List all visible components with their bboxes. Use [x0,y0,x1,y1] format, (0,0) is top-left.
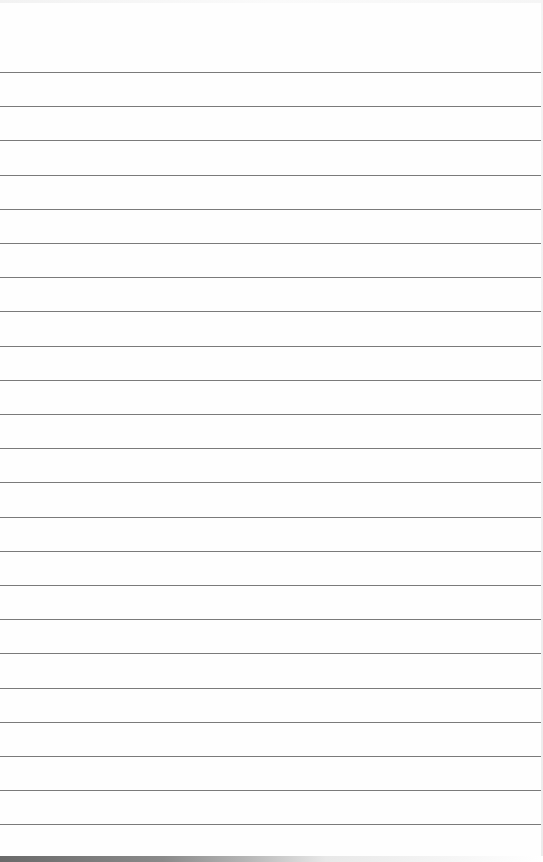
ruled-line [0,585,541,586]
bottom-edge-shadow [0,856,543,862]
ruled-line [0,517,541,518]
ruled-line [0,72,541,73]
ruled-line [0,209,541,210]
ruled-line [0,277,541,278]
ruled-line [0,311,541,312]
ruled-line [0,722,541,723]
ruled-line [0,824,541,825]
ruled-line [0,756,541,757]
ruled-line [0,482,541,483]
lined-paper-page [0,0,543,862]
ruled-line [0,140,541,141]
ruled-line [0,106,541,107]
ruled-line [0,653,541,654]
ruled-line [0,380,541,381]
ruled-line [0,243,541,244]
ruled-line [0,448,541,449]
ruled-line [0,414,541,415]
ruled-line [0,619,541,620]
ruled-line [0,551,541,552]
ruled-line [0,346,541,347]
ruled-line [0,688,541,689]
ruled-line [0,175,541,176]
top-edge-shadow [0,0,543,3]
ruled-line [0,790,541,791]
